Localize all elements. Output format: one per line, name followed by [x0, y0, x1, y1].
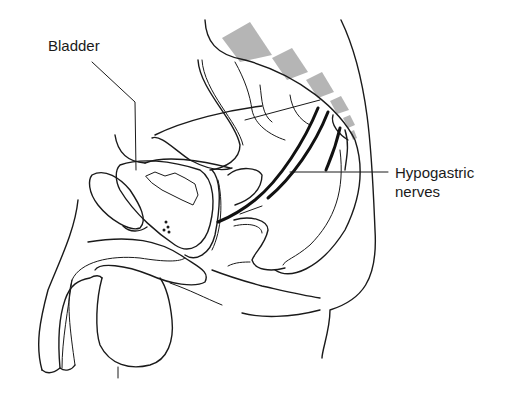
hypogastric-label-line1: Hypogastric [395, 165, 474, 181]
bladder-label: Bladder [48, 38, 100, 54]
hypogastric-label-line2: nerves [395, 184, 440, 200]
penis-outline [42, 365, 75, 373]
hypogastric-nerves [218, 108, 348, 222]
back-outline [322, 20, 375, 358]
prostate-dots [163, 221, 171, 234]
sacrum-vertebrae [222, 22, 357, 140]
bladder-outline [116, 161, 213, 249]
bladder-leader-line [92, 62, 136, 170]
bladder-lumen [146, 172, 198, 205]
pelvis-diagram [0, 0, 532, 395]
testis-outline [97, 278, 173, 367]
